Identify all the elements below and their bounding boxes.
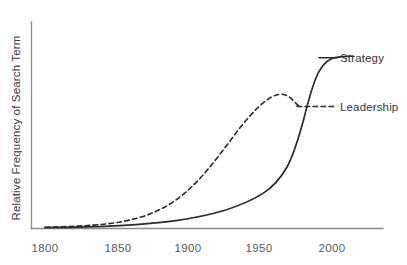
x-tick-label-1900: 1900 (175, 242, 202, 254)
series-line-leadership (45, 94, 301, 227)
series-label-leadership: Leadership (340, 101, 398, 113)
series-line-strategy (45, 56, 353, 227)
x-tick-label-1850: 1850 (105, 242, 132, 254)
line-chart: Strategy Leadership 1800 1850 1900 1950 … (0, 0, 407, 265)
x-tick-label-1950: 1950 (246, 242, 273, 254)
x-tick-label-2000: 2000 (319, 242, 346, 254)
series-label-strategy: Strategy (340, 52, 384, 64)
chart-canvas: Strategy Leadership 1800 1850 1900 1950 … (0, 0, 407, 265)
y-axis-title: Relative Frequency of Search Term (10, 36, 22, 221)
x-tick-label-1800: 1800 (32, 242, 59, 254)
